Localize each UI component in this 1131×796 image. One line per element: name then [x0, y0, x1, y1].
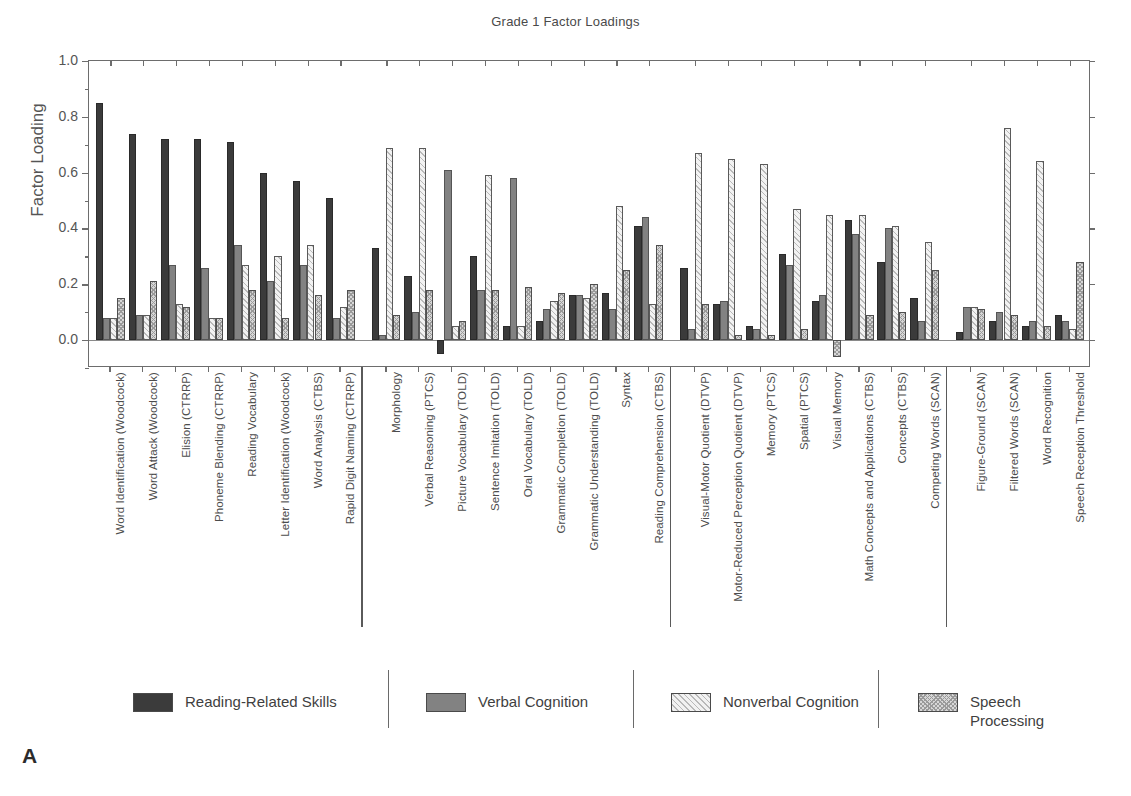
bar-1-2 [169, 265, 176, 340]
bar-group [501, 61, 534, 366]
bar-group [876, 61, 909, 366]
bar-1-13 [543, 309, 550, 340]
bar-2-28 [1069, 329, 1076, 340]
bar-0-10 [437, 340, 444, 354]
bar-group [567, 61, 600, 366]
x-tick-mark [241, 367, 242, 372]
bar-3-14 [590, 284, 597, 340]
x-tick-mark [694, 367, 695, 372]
x-label-24: Competing Words (SCAN) [929, 372, 941, 509]
x-tick-mark-top [452, 61, 453, 66]
x-tick-mark [826, 367, 827, 372]
x-tick-mark-top [209, 61, 210, 66]
x-label-14: Grammatic Understanding (TOLD) [588, 372, 600, 551]
bar-0-17 [680, 268, 687, 341]
x-label-17: Visual-Motor Quotient (DTVP) [699, 372, 711, 527]
bar-2-13 [550, 301, 557, 340]
x-tick-mark-top [971, 61, 972, 66]
bar-2-5 [274, 256, 281, 340]
x-label-12: Oral Vocabulary (TOLD) [522, 372, 534, 497]
x-label-26: Filtered Words (SCAN) [1008, 372, 1020, 491]
chart-title: Grade 1 Factor Loadings [0, 14, 1131, 29]
x-tick-mark [760, 367, 761, 372]
bar-3-24 [932, 270, 939, 340]
bar-2-2 [176, 304, 183, 340]
bar-2-10 [452, 326, 459, 340]
bar-1-0 [103, 318, 110, 340]
bar-0-21 [812, 301, 819, 340]
x-tick-mark [891, 367, 892, 372]
legend-item-3[interactable]: Speech Processing [918, 692, 1044, 730]
legend-label-3: Speech Processing [970, 692, 1044, 730]
bar-0-15 [602, 293, 609, 340]
bar-3-25 [978, 309, 985, 340]
bar-2-27 [1036, 161, 1043, 340]
x-label-4: Reading Vocabulary [246, 372, 258, 477]
bar-group [370, 61, 403, 366]
bar-group [955, 61, 988, 366]
bar-group [777, 61, 810, 366]
y-tick-mark-right [1089, 284, 1095, 285]
bar-1-16 [642, 217, 649, 340]
x-tick-mark-top [340, 61, 341, 66]
y-tick-mark [82, 284, 89, 285]
legend-item-0[interactable]: Reading-Related Skills [133, 692, 337, 712]
x-tick-mark-top [1004, 61, 1005, 66]
bar-1-7 [333, 318, 340, 340]
bar-3-22 [866, 315, 873, 340]
x-tick-mark-top [419, 61, 420, 66]
bar-2-26 [1004, 128, 1011, 340]
bar-1-27 [1029, 321, 1036, 341]
bar-3-0 [117, 298, 124, 340]
x-tick-mark [793, 367, 794, 372]
bar-3-7 [347, 290, 354, 340]
bar-2-1 [143, 315, 150, 340]
x-tick-mark-top [695, 61, 696, 66]
bar-0-11 [470, 256, 477, 340]
x-label-1: Word Attack (Woodcock) [147, 372, 159, 500]
y-tick-minor [85, 89, 89, 90]
y-tick-mark-right [1089, 173, 1095, 174]
x-label-5: Letter Identification (Woodcock) [279, 372, 291, 537]
bar-2-22 [859, 215, 866, 341]
y-tick-0.0: 0.0 [34, 331, 78, 347]
bar-group [744, 61, 777, 366]
bar-1-10 [444, 170, 451, 340]
bar-0-22 [845, 220, 852, 340]
x-tick-mark-top [308, 61, 309, 66]
x-tick-mark-top [518, 61, 519, 66]
bar-2-16 [649, 304, 656, 340]
x-tick-mark [274, 367, 275, 372]
legend-item-2[interactable]: Nonverbal Cognition [671, 692, 859, 712]
x-tick-mark [517, 367, 518, 372]
bar-3-16 [656, 245, 663, 340]
y-tick-mark [82, 117, 89, 118]
x-tick-mark-top [761, 61, 762, 66]
x-label-27: Word Recognition [1041, 372, 1053, 465]
bar-group [225, 61, 258, 366]
y-tick-mark-right [1089, 228, 1095, 229]
bar-2-12 [517, 326, 524, 340]
x-tick-mark-top [649, 61, 650, 66]
legend-swatch-2 [671, 693, 711, 712]
x-tick-mark-top [794, 61, 795, 66]
panel-label: A [22, 744, 37, 768]
y-tick-0.4: 0.4 [34, 219, 78, 235]
bar-0-25 [956, 332, 963, 340]
x-tick-mark [109, 367, 110, 372]
bar-3-10 [459, 321, 466, 341]
legend-separator-1 [633, 670, 634, 728]
y-tick-mark [82, 228, 89, 229]
bar-group [712, 61, 745, 366]
x-tick-mark [550, 367, 551, 372]
y-tick-mark-right [1089, 117, 1095, 118]
x-label-18: Motor-Reduced Perception Quotient (DTVP) [732, 372, 744, 602]
legend-item-1[interactable]: Verbal Cognition [426, 692, 588, 712]
bar-0-27 [1022, 326, 1029, 340]
group-divider-0 [361, 367, 362, 627]
y-tick-1.0: 1.0 [34, 52, 78, 68]
bar-2-17 [695, 153, 702, 340]
bar-group [679, 61, 712, 366]
y-tick-0.2: 0.2 [34, 275, 78, 291]
x-tick-mark-top [386, 61, 387, 66]
